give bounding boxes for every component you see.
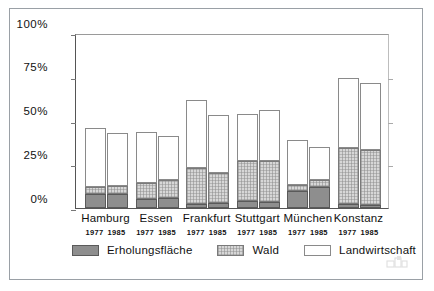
chart-figure: 100% 75% 50% 25% 0% 19771985Hamburg19771… <box>0 0 434 291</box>
y-tick-mark-25 <box>71 166 76 167</box>
bar-segment-landwirtschaft <box>186 100 207 168</box>
bar-segment-erholungsflaeche <box>360 205 381 209</box>
bar-segment-wald <box>360 150 381 204</box>
chart-legend: ErholungsflächeWaldLandwirtschaft <box>72 242 434 258</box>
bar-segment-wald <box>107 186 128 194</box>
bar-segment-landwirtschaft <box>107 133 128 186</box>
bar-segment-landwirtschaft <box>136 132 157 183</box>
bar-segment-erholungsflaeche <box>208 203 229 208</box>
bar-segment-wald <box>237 161 258 201</box>
bar-segment-landwirtschaft <box>287 140 308 186</box>
chart-frame: 100% 75% 50% 25% 0% 19771985Hamburg19771… <box>9 8 423 280</box>
bar-segment-landwirtschaft <box>237 114 258 161</box>
bar-segment-wald <box>259 161 280 202</box>
y-tick-label-75: 75% <box>23 61 48 73</box>
bar-segment-erholungsflaeche <box>186 204 207 208</box>
bar-segment-landwirtschaft <box>208 115 229 173</box>
plot-area <box>75 34 389 209</box>
bar-segment-wald <box>208 173 229 203</box>
bar-segment-landwirtschaft <box>259 110 280 161</box>
bar-segment-wald <box>287 185 308 190</box>
bar-segment-landwirtschaft <box>158 136 179 180</box>
bar-segment-wald <box>186 168 207 204</box>
bar-segment-wald <box>338 148 359 204</box>
y-tick-label-50: 50% <box>23 105 48 117</box>
bar-segment-erholungsflaeche <box>136 199 157 208</box>
y-tick-mark-right-50 <box>388 123 393 124</box>
bar-segment-erholungsflaeche <box>309 187 330 208</box>
bar-segment-wald <box>136 183 157 200</box>
bar-segment-erholungsflaeche <box>287 191 308 209</box>
y-tick-label-100: 100% <box>17 18 48 30</box>
bar-segment-erholungsflaeche <box>338 204 359 208</box>
stacked-bar-konstanz-1985 <box>360 33 381 208</box>
legend-item-erholungsflaeche: Erholungsfläche <box>72 244 192 256</box>
white-swatch <box>304 245 331 256</box>
legend-item-wald: Wald <box>217 244 279 256</box>
publisher-logo-icon <box>386 255 408 271</box>
x-city-label-konstanz: Konstanz <box>314 212 404 224</box>
stacked-bar-essen-1985 <box>158 33 179 208</box>
bar-segment-erholungsflaeche <box>107 194 128 208</box>
y-tick-mark-right-25 <box>388 166 393 167</box>
bar-segment-landwirtschaft <box>85 128 106 188</box>
legend-label: Wald <box>252 244 279 256</box>
stacked-bar-essen-1977 <box>136 33 157 208</box>
stacked-bar-frankfurt-1985 <box>208 33 229 208</box>
stacked-bar-stuttgart-1985 <box>259 33 280 208</box>
stacked-bar-frankfurt-1977 <box>186 33 207 208</box>
x-year-label-konstanz-1985: 1985 <box>350 228 390 237</box>
dark-gray-swatch <box>72 245 99 256</box>
bar-segment-erholungsflaeche <box>85 194 106 208</box>
stacked-bar-munchen-1977 <box>287 33 308 208</box>
bar-segment-landwirtschaft <box>338 78 359 148</box>
bar-segment-landwirtschaft <box>309 147 330 180</box>
bar-segment-erholungsflaeche <box>237 201 258 208</box>
y-tick-mark-50 <box>71 123 76 124</box>
bar-segment-landwirtschaft <box>360 83 381 150</box>
bar-segment-wald <box>309 180 330 187</box>
y-tick-label-25: 25% <box>23 149 48 161</box>
stacked-bar-hamburg-1977 <box>85 33 106 208</box>
legend-label: Erholungsfläche <box>107 244 192 256</box>
y-tick-mark-75 <box>71 79 76 80</box>
y-tick-mark-100 <box>71 35 76 36</box>
light-gray-hatched-swatch <box>217 245 244 256</box>
bar-segment-wald <box>158 180 179 198</box>
y-tick-label-0: 0% <box>30 193 48 205</box>
y-tick-mark-0 <box>71 210 76 211</box>
stacked-bar-stuttgart-1977 <box>237 33 258 208</box>
bar-segment-erholungsflaeche <box>158 198 179 208</box>
bar-segment-erholungsflaeche <box>259 202 280 208</box>
stacked-bar-konstanz-1977 <box>338 33 359 208</box>
stacked-bar-hamburg-1985 <box>107 33 128 208</box>
bar-segment-wald <box>85 187 106 194</box>
y-tick-mark-right-75 <box>388 79 393 80</box>
stacked-bar-munchen-1985 <box>309 33 330 208</box>
